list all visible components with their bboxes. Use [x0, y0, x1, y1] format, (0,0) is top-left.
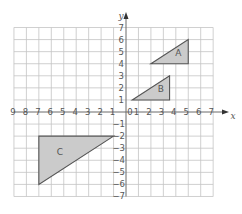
y-tick-label: 3	[119, 71, 124, 81]
x-tick-label: 7	[35, 107, 40, 117]
x-tick-label: 6	[48, 107, 53, 117]
x-tick-label: 7	[208, 107, 213, 117]
y-tick-label: −2	[112, 131, 125, 141]
x-tick-label: 4	[171, 107, 176, 117]
y-tick-label: 2	[119, 83, 124, 93]
y-tick-label: 1	[119, 95, 124, 105]
x-tick-label: 2	[97, 107, 102, 117]
triangle-label-b: B	[158, 84, 164, 94]
y-tick-label: −5	[112, 167, 125, 177]
x-tick-label: 8	[23, 107, 28, 117]
x-tick-label: 4	[72, 107, 77, 117]
y-tick-label: 5	[119, 47, 124, 57]
triangle-label-c: C	[57, 147, 63, 157]
x-axis-label: x	[230, 111, 235, 121]
grid-plot: ABC xy 98765432112345671234567−1−2−3−4−5…	[0, 0, 242, 214]
triangle-label-a: A	[175, 48, 182, 58]
x-tick-label: 3	[85, 107, 90, 117]
x-tick-label: 9	[10, 107, 15, 117]
y-tick-label: −6	[112, 179, 125, 189]
y-tick-label: −4	[112, 155, 125, 165]
x-axis-arrow-icon	[222, 110, 229, 115]
y-tick-label: 4	[119, 59, 124, 69]
x-tick-label: 3	[159, 107, 164, 117]
origin-label: 0	[127, 107, 132, 117]
y-tick-label: 7	[119, 23, 124, 33]
y-tick-label: 6	[119, 35, 124, 45]
x-tick-label: 1	[134, 107, 139, 117]
coordinate-grid-diagram: ABC xy 98765432112345671234567−1−2−3−4−5…	[0, 0, 242, 214]
x-tick-label: 6	[196, 107, 201, 117]
x-tick-label: 5	[184, 107, 189, 117]
y-axis-arrow-icon	[124, 12, 129, 19]
x-tick-label: 2	[146, 107, 151, 117]
x-tick-label: 5	[60, 107, 65, 117]
y-axis-label: y	[117, 11, 124, 21]
y-tick-label: −3	[112, 143, 125, 153]
y-tick-label: −7	[112, 191, 125, 201]
y-tick-label: −1	[112, 119, 125, 129]
x-tick-label: 1	[110, 107, 115, 117]
